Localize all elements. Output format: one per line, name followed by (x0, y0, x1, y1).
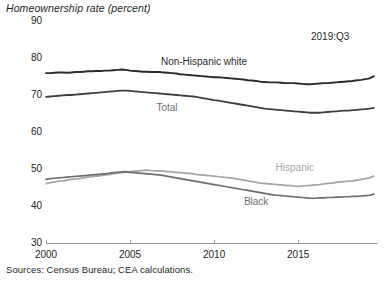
source-note: Sources: Census Bureau; CEA calculations… (6, 264, 193, 275)
series-lines (46, 69, 374, 198)
series-label-hispanic: Hispanic (276, 162, 314, 173)
series-label-black: Black (244, 196, 268, 207)
series-label-total: Total (156, 102, 177, 113)
series-label-non-hispanic-white: Non-Hispanic white (161, 56, 247, 67)
axis-lines (46, 240, 378, 244)
series-line-non-hispanic-white (46, 69, 374, 84)
homeownership-rate-chart: Homeownership rate (percent) 2019:Q3 908… (0, 0, 385, 281)
plot-area (0, 0, 385, 281)
series-line-total (46, 91, 374, 113)
